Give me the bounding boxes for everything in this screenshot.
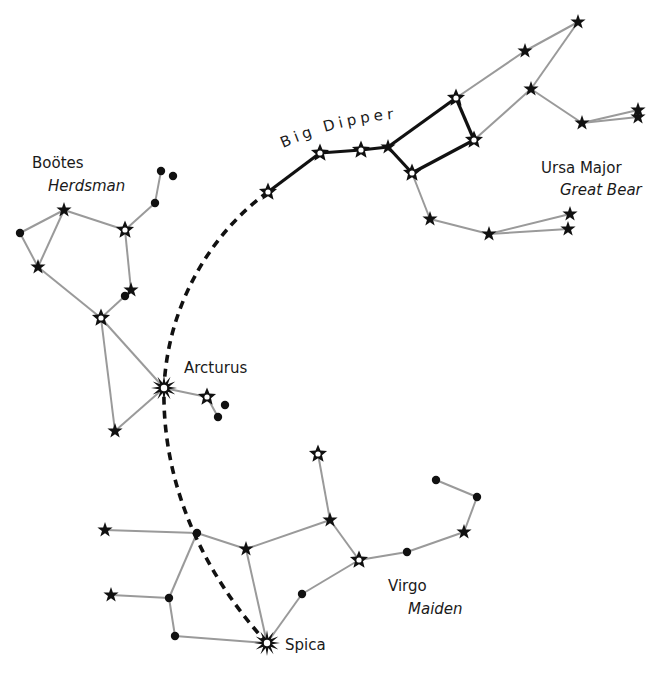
constellation-line: [64, 210, 125, 230]
constellation-line: [125, 203, 155, 230]
constellation-line: [302, 560, 359, 594]
star-icon: [481, 226, 496, 240]
constellation-line: [169, 598, 175, 636]
star-dot-icon: [473, 493, 481, 501]
constellation-line: [582, 117, 638, 123]
star-icon: [97, 522, 112, 536]
star-icon: [560, 221, 575, 235]
star-icon: [103, 587, 118, 601]
star-icon: [56, 202, 71, 216]
stars: [16, 14, 646, 656]
star-chart: Big Dipper Ursa Major Great Bear Boötes …: [0, 0, 662, 676]
label-arcturus: Arcturus: [184, 359, 247, 377]
bright-star-icon: [350, 551, 368, 568]
constellation-line: [474, 89, 531, 140]
star-dot-icon: [403, 548, 411, 556]
label-virgo: Virgo: [388, 577, 427, 595]
constellation-line: [101, 318, 164, 388]
star-icon: [574, 115, 589, 129]
constellation-line: [388, 98, 456, 147]
constellation-line: [525, 22, 578, 51]
constellation-line: [101, 318, 115, 431]
star-dot-icon: [169, 172, 177, 180]
constellation-line: [111, 595, 169, 598]
constellation-line: [125, 230, 131, 290]
label-maiden: Maiden: [408, 600, 463, 618]
spica-burst-star-icon: [254, 630, 280, 656]
star-dot-icon: [165, 594, 173, 602]
label-ursa-major: Ursa Major: [541, 159, 622, 177]
constellation-line: [175, 636, 267, 643]
star-dot-icon: [221, 401, 229, 409]
constellation-line: [318, 454, 330, 520]
star-dot-icon: [193, 529, 201, 537]
constellation-line: [268, 153, 320, 192]
constellation-line: [38, 267, 101, 318]
constellation-line: [430, 219, 489, 234]
constellation-line: [456, 98, 474, 140]
constellation-line: [582, 110, 638, 123]
bright-star-icon: [198, 388, 216, 405]
star-dot-icon: [16, 229, 24, 237]
constellation-line: [155, 171, 161, 203]
star-dot-icon: [171, 632, 179, 640]
constellation-line: [407, 532, 464, 552]
constellation-line: [359, 552, 407, 560]
constellation-line: [169, 533, 197, 598]
star-icon: [562, 206, 577, 220]
label-herdsman: Herdsman: [48, 177, 125, 195]
star-icon: [422, 211, 437, 225]
star-icon: [456, 524, 471, 538]
label-big-dipper: Big Dipper: [277, 105, 398, 152]
constellation-line: [246, 520, 330, 549]
star-dot-icon: [298, 590, 306, 598]
star-dot-icon: [121, 292, 129, 300]
constellation-line: [531, 22, 578, 89]
constellation-line: [38, 210, 64, 267]
constellation-line: [412, 140, 474, 173]
constellation-line: [531, 89, 582, 123]
constellation-line: [20, 210, 64, 233]
label-bootes: Boötes: [32, 154, 84, 172]
star-dot-icon: [157, 167, 165, 175]
constellation-line: [412, 173, 430, 219]
constellation-line: [456, 51, 525, 98]
bright-star-icon: [259, 183, 277, 200]
constellation-line: [115, 388, 164, 431]
star-dot-icon: [432, 476, 440, 484]
label-spica: Spica: [285, 636, 326, 654]
constellation-line: [464, 497, 477, 532]
star-icon: [322, 512, 337, 526]
star-dot-icon: [214, 413, 222, 421]
star-dot-icon: [151, 199, 159, 207]
constellation-lines: [20, 22, 638, 643]
star-icon: [570, 14, 585, 28]
constellation-line: [436, 480, 477, 497]
constellation-line: [20, 233, 38, 267]
bright-star-icon: [352, 141, 370, 158]
label-great-bear: Great Bear: [560, 181, 643, 199]
constellation-line: [105, 530, 197, 533]
label-big-dipper-text: Big Dipper: [277, 105, 398, 152]
